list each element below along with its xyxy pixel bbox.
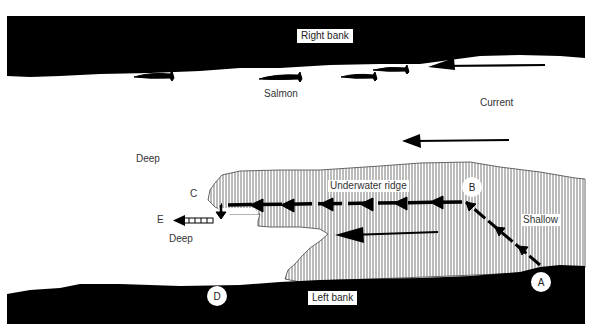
current-arrow-icon xyxy=(402,134,509,148)
point-b: B xyxy=(462,177,482,197)
point-a: A xyxy=(531,272,551,292)
shallow-label: Shallow xyxy=(521,214,560,226)
diagram-canvas xyxy=(0,0,593,332)
point-e: E xyxy=(157,215,164,225)
fish-icon xyxy=(259,72,302,82)
right-bank-label: Right bank xyxy=(297,29,353,43)
point-c: C xyxy=(190,189,197,199)
fish-icon xyxy=(341,72,377,81)
salmon-label: Salmon xyxy=(264,89,298,99)
river-diagram: Right bank Left bank Salmon Current Deep… xyxy=(0,0,593,332)
deep-label-lower: Deep xyxy=(169,234,193,244)
path-c-to-e xyxy=(173,215,213,226)
current-label: Current xyxy=(480,98,513,108)
deep-label-upper: Deep xyxy=(136,154,160,164)
right-bank-shape xyxy=(7,16,585,77)
fish-icon xyxy=(373,65,409,74)
left-bank-label: Left bank xyxy=(308,291,357,305)
point-d: D xyxy=(207,286,227,306)
ridge-label: Underwater ridge xyxy=(328,180,409,192)
